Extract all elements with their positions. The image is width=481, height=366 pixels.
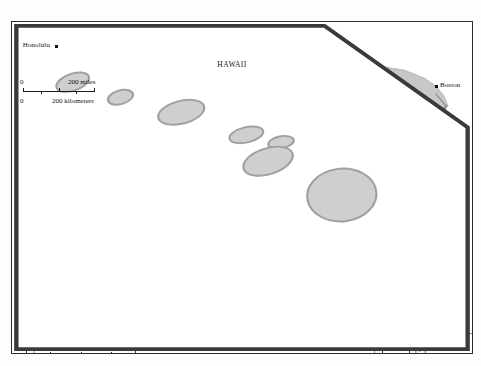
- map-page: SeattlePortlandButteBillingsFargoMinneap…: [0, 0, 481, 366]
- hawaii-scale-km-200: 200 kilometers: [52, 97, 94, 105]
- hawaii-scale-km-0: 0: [20, 97, 24, 105]
- hawaii-inset-outline: [12, 22, 472, 353]
- hawaii-scale-miles-0: 0: [20, 78, 24, 86]
- hawaii-scale-bar: 0 200 miles 0 200 kilometers: [20, 78, 112, 108]
- hawaii-title: HAWAII: [11, 60, 462, 69]
- city-dot: [55, 45, 58, 48]
- hawaii-scale-miles-200: 200 miles: [68, 78, 95, 86]
- hawaii-inset-panel[interactable]: Honolulu HAWAII 0 200 miles 0 200 kilome…: [12, 22, 118, 110]
- main-map-frame[interactable]: SeattlePortlandButteBillingsFargoMinneap…: [11, 21, 473, 354]
- city-label: Honolulu: [23, 42, 50, 50]
